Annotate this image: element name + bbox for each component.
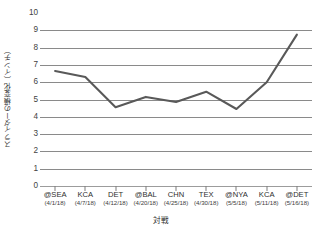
y-axis-tick-label: 8 (18, 43, 38, 51)
y-axis-tick-label: 7 (18, 61, 38, 69)
x-axis-title: 対戦 (0, 214, 321, 225)
x-axis-category-at-det: @DET(5/16/18) (274, 191, 320, 207)
y-axis-tick-label: 6 (18, 78, 38, 86)
plot-area (40, 13, 312, 186)
y-axis-tick-label: 2 (18, 147, 38, 155)
y-axis-tick-label: 4 (18, 113, 38, 121)
y-axis-title-text: スライダーの横変化（インチ） (4, 47, 11, 148)
y-axis-tick-label: 3 (18, 130, 38, 138)
y-axis-tick-label: 9 (18, 26, 38, 34)
series-polyline (55, 35, 297, 109)
y-axis-tick-label: 10 (18, 9, 38, 17)
slider-horizontal-break-line-chart: スライダーの横変化（インチ） 109876543210 @SEA(4/1/18)… (0, 0, 321, 231)
y-axis-tick-label: 5 (18, 95, 38, 103)
series-line-slider-break (40, 13, 312, 186)
y-axis-title: スライダーの横変化（インチ） (0, 0, 16, 195)
category-date: (5/16/18) (274, 200, 320, 207)
y-axis-tick-label: 1 (18, 165, 38, 173)
category-name: @DET (274, 191, 320, 199)
y-axis-tick-label: 0 (18, 182, 38, 190)
